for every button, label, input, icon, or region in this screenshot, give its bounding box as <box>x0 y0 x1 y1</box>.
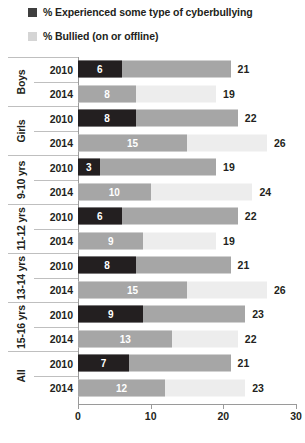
bar-value-cyberbullying: 15 <box>127 137 138 148</box>
table-row: 621 <box>78 57 305 82</box>
table-row: 819 <box>78 82 305 107</box>
group-label-13-14-yrs: 13-14 yrs <box>8 253 34 302</box>
x-axis-tick-label-20: 20 <box>217 410 229 422</box>
x-axis-tick-label-10: 10 <box>145 410 157 422</box>
bar-cyberbullying: 13 <box>78 330 172 347</box>
year-label-2010-10: 2010 <box>34 302 78 327</box>
group-label-text: All <box>15 370 27 383</box>
bar-cyberbullying: 15 <box>78 134 187 151</box>
bar-cyberbullying: 8 <box>78 257 136 274</box>
bar-value-bullied: 23 <box>252 308 264 320</box>
cyberbullying-bar-chart: % Experienced some type of cyberbullying… <box>0 0 305 443</box>
group-label-15-16-yrs: 15-16 yrs <box>8 302 34 351</box>
bar-value-cyberbullying: 7 <box>101 358 107 369</box>
table-row: 721 <box>78 351 305 376</box>
bar-value-cyberbullying: 9 <box>108 309 114 320</box>
bar-value-cyberbullying: 12 <box>116 382 127 393</box>
bar-cyberbullying: 7 <box>78 355 129 372</box>
group-label-all: All <box>8 351 34 400</box>
year-label-2014-7: 2014 <box>34 229 78 254</box>
bar-value-bullied: 21 <box>238 259 250 271</box>
legend-item-bullied: % Bullied (on or offline) <box>0 24 305 48</box>
bar-value-bullied: 22 <box>245 333 257 345</box>
group-label-9-10-yrs: 9-10 yrs <box>8 155 34 204</box>
bar-value-bullied: 19 <box>223 88 235 100</box>
x-axis-tick-30 <box>296 404 297 409</box>
legend-label-cyberbullying: % Experienced some type of cyberbullying <box>43 6 253 18</box>
bar-value-cyberbullying: 6 <box>97 64 103 75</box>
bar-cyberbullying: 9 <box>78 232 143 249</box>
bar-value-bullied: 22 <box>245 112 257 124</box>
bar-value-cyberbullying: 13 <box>120 333 131 344</box>
bar-value-bullied: 21 <box>238 63 250 75</box>
bar-cyberbullying: 15 <box>78 281 187 298</box>
bar-value-cyberbullying: 10 <box>109 186 120 197</box>
x-axis-tick-0 <box>78 404 79 409</box>
table-row: 1526 <box>78 131 305 156</box>
bar-value-bullied: 19 <box>223 161 235 173</box>
x-axis-tick-label-30: 30 <box>290 410 302 422</box>
bar-value-bullied: 19 <box>223 235 235 247</box>
bar-cyberbullying: 6 <box>78 61 122 78</box>
x-axis-tick-label-0: 0 <box>75 410 81 422</box>
group-label-text: 9-10 yrs <box>15 161 27 199</box>
bar-cyberbullying: 6 <box>78 208 122 225</box>
group-label-text: 13-14 yrs <box>15 256 27 300</box>
year-label-column: 2010201420102014201020142010201420102014… <box>34 57 78 400</box>
legend-label-bullied: % Bullied (on or offline) <box>43 30 158 42</box>
bar-cyberbullying: 10 <box>78 183 151 200</box>
table-row: 319 <box>78 155 305 180</box>
bar-value-cyberbullying: 8 <box>104 113 110 124</box>
year-label-2010-0: 2010 <box>34 57 78 82</box>
group-label-girls: Girls <box>8 106 34 155</box>
legend-swatch-bullied <box>28 32 37 41</box>
table-row: 923 <box>78 302 305 327</box>
year-label-2010-2: 2010 <box>34 106 78 131</box>
bar-value-cyberbullying: 6 <box>97 211 103 222</box>
bar-cyberbullying: 9 <box>78 306 143 323</box>
table-row: 1526 <box>78 278 305 303</box>
group-label-text: 15-16 yrs <box>15 305 27 349</box>
bar-cyberbullying: 8 <box>78 110 136 127</box>
bar-value-bullied: 21 <box>238 357 250 369</box>
bar-value-bullied: 26 <box>274 137 286 149</box>
year-label-2010-6: 2010 <box>34 204 78 229</box>
year-label-2010-12: 2010 <box>34 351 78 376</box>
table-row: 919 <box>78 229 305 254</box>
bar-value-cyberbullying: 15 <box>127 284 138 295</box>
group-label-column: BoysGirls9-10 yrs11-12 yrs13-14 yrs15-16… <box>8 57 34 400</box>
plot-area: BoysGirls9-10 yrs11-12 yrs13-14 yrs15-16… <box>0 57 305 405</box>
group-label-text: Boys <box>15 70 27 95</box>
year-label-2014-11: 2014 <box>34 327 78 352</box>
year-label-2010-8: 2010 <box>34 253 78 278</box>
bar-value-cyberbullying: 8 <box>104 88 110 99</box>
year-label-2014-9: 2014 <box>34 278 78 303</box>
bar-value-cyberbullying: 9 <box>108 235 114 246</box>
legend-item-cyberbullying: % Experienced some type of cyberbullying <box>0 0 305 24</box>
chart-legend: % Experienced some type of cyberbullying… <box>0 0 305 48</box>
legend-swatch-cyberbullying <box>28 8 37 17</box>
table-row: 821 <box>78 253 305 278</box>
table-row: 1322 <box>78 327 305 352</box>
bars-column: 6218198221526319102462291982115269231322… <box>78 57 305 400</box>
x-axis-tick-20 <box>223 404 224 409</box>
bar-value-bullied: 24 <box>259 186 271 198</box>
year-label-2014-13: 2014 <box>34 376 78 401</box>
bar-value-cyberbullying: 8 <box>104 260 110 271</box>
group-label-boys: Boys <box>8 57 34 106</box>
x-axis-line <box>78 404 296 405</box>
x-axis-tick-10 <box>151 404 152 409</box>
group-label-11-12-yrs: 11-12 yrs <box>8 204 34 253</box>
table-row: 822 <box>78 106 305 131</box>
table-row: 622 <box>78 204 305 229</box>
year-label-2014-3: 2014 <box>34 131 78 156</box>
year-label-2010-4: 2010 <box>34 155 78 180</box>
table-row: 1024 <box>78 180 305 205</box>
bar-value-bullied: 22 <box>245 210 257 222</box>
bar-value-bullied: 26 <box>274 284 286 296</box>
bar-value-bullied: 23 <box>252 382 264 394</box>
group-label-text: Girls <box>15 120 27 143</box>
year-label-2014-5: 2014 <box>34 180 78 205</box>
table-row: 1223 <box>78 376 305 401</box>
bar-value-cyberbullying: 3 <box>86 162 92 173</box>
